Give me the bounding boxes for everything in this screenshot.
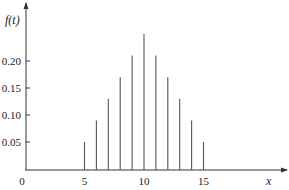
x-ticks: 051015 bbox=[19, 175, 209, 187]
x-tick-label: 10 bbox=[139, 175, 151, 187]
x-tick-label: 5 bbox=[82, 175, 88, 187]
y-tick-label: 0.10 bbox=[2, 109, 22, 121]
y-tick-label: 0.20 bbox=[2, 55, 22, 67]
chart: 0.050.100.150.20 051015 f(t) x bbox=[0, 0, 289, 190]
stems bbox=[85, 34, 204, 170]
x-tick-label: 0 bbox=[19, 175, 25, 187]
y-tick-label: 0.05 bbox=[2, 136, 22, 148]
y-tick-label: 0.15 bbox=[2, 82, 22, 94]
x-tick-label: 15 bbox=[198, 175, 210, 187]
y-axis-label: f(t) bbox=[5, 13, 20, 27]
x-axis-label: x bbox=[265, 174, 272, 188]
